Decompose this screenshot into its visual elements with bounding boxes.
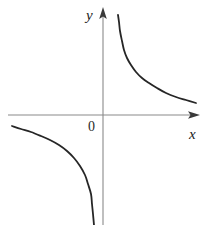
graph-figure: y x 0 [0, 0, 206, 225]
hyperbola-branch-quadrant-3 [12, 126, 94, 225]
hyperbola-branch-quadrant-1 [118, 15, 196, 103]
x-axis-label: x [189, 127, 196, 142]
plot-canvas [0, 0, 206, 225]
y-axis-label: y [86, 8, 93, 23]
origin-label: 0 [88, 120, 95, 134]
